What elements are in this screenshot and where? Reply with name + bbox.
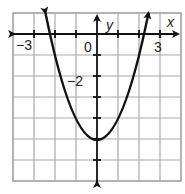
graph: −3 0 3 −2 y x xyxy=(0,0,185,194)
tick-label-0: 0 xyxy=(84,39,92,55)
tick-label-neg2: −2 xyxy=(67,73,83,89)
tick-label-3: 3 xyxy=(154,39,162,55)
x-axis-label: x xyxy=(166,14,175,30)
y-axis-label: y xyxy=(105,17,114,33)
tick-label-neg3: −3 xyxy=(16,37,32,53)
